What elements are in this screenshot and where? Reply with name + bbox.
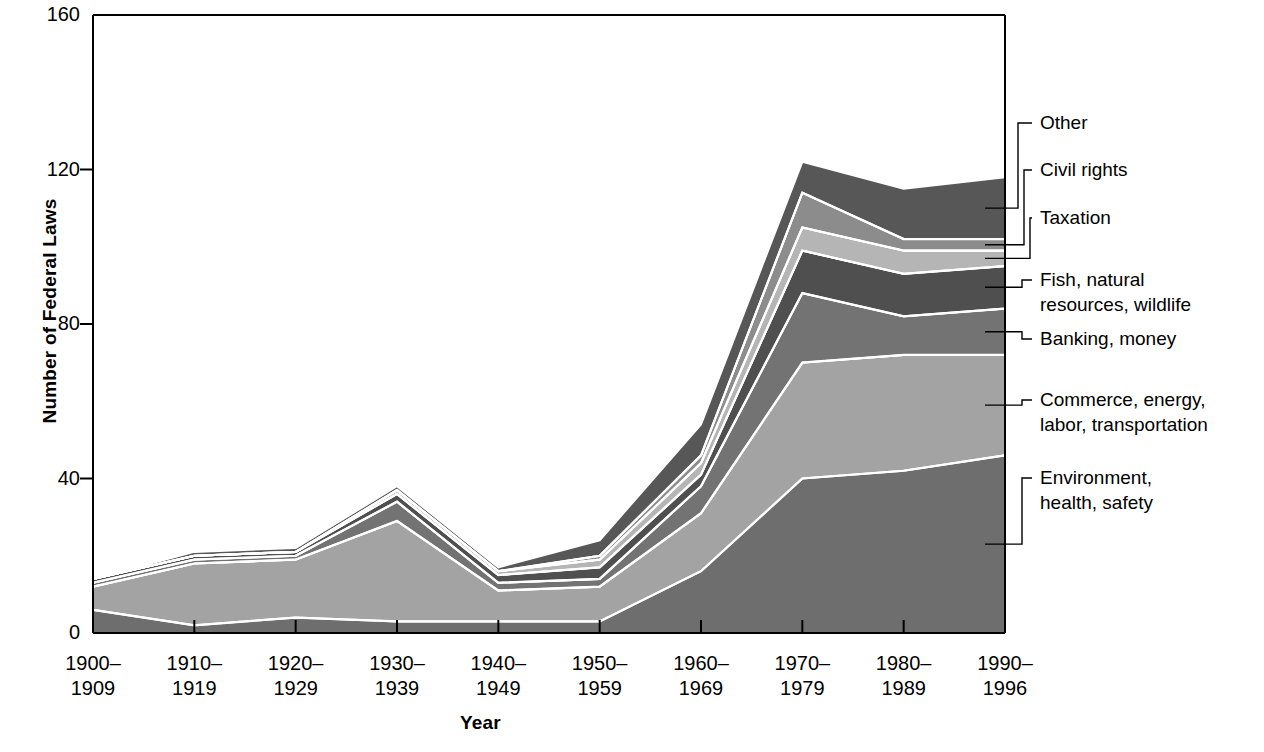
legend-label-line: Taxation xyxy=(1040,205,1111,230)
y-tick-label: 120 xyxy=(22,159,80,179)
legend-label-line: Civil rights xyxy=(1040,157,1128,182)
x-tick-label-line: 1996 xyxy=(945,676,1065,701)
x-tick-label: 1990–1996 xyxy=(945,651,1065,701)
y-tick-label: 80 xyxy=(22,313,80,333)
legend-label-line: Other xyxy=(1040,110,1088,135)
y-tick-label: 0 xyxy=(22,622,80,642)
y-tick-label: 160 xyxy=(22,4,80,24)
y-tick-label: 40 xyxy=(22,468,80,488)
y-axis-title: Number of Federal Laws xyxy=(39,151,61,471)
legend-label-line: Environment, xyxy=(1040,465,1153,490)
chart-figure: Number of Federal Laws Year 04080120160 … xyxy=(0,0,1264,752)
legend-item-environment[interactable]: Environment,health, safety xyxy=(1040,465,1153,515)
legend-item-other[interactable]: Other xyxy=(1040,110,1088,135)
legend-item-banking[interactable]: Banking, money xyxy=(1040,326,1176,351)
legend-label-line: resources, wildlife xyxy=(1040,292,1191,317)
x-axis-title: Year xyxy=(460,712,501,734)
legend-label-line: labor, transportation xyxy=(1040,412,1208,437)
x-tick-label-line: 1990– xyxy=(945,651,1065,676)
legend-label-line: Commerce, energy, xyxy=(1040,387,1208,412)
legend-item-civil-rights[interactable]: Civil rights xyxy=(1040,157,1128,182)
legend-label-line: health, safety xyxy=(1040,490,1153,515)
legend-label-line: Banking, money xyxy=(1040,326,1176,351)
legend-item-fish[interactable]: Fish, naturalresources, wildlife xyxy=(1040,267,1191,317)
legend-label-line: Fish, natural xyxy=(1040,267,1191,292)
legend-item-commerce[interactable]: Commerce, energy,labor, transportation xyxy=(1040,387,1208,437)
legend-item-taxation[interactable]: Taxation xyxy=(1040,205,1111,230)
